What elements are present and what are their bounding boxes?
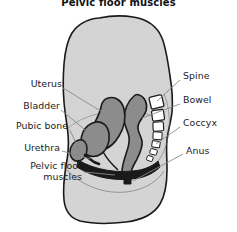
label-anus: Anus <box>186 146 209 157</box>
label-pelvic-floor-muscles: Pelvic floor muscles <box>0 161 82 182</box>
anus <box>124 179 131 184</box>
label-spine: Spine <box>183 71 209 82</box>
pubic-bone <box>70 140 87 161</box>
pelvic-floor-diagram: Pelvic floor muscles <box>0 0 237 232</box>
label-pubic-bone: Pubic bone <box>0 121 68 132</box>
label-urethra: Urethra <box>0 143 60 154</box>
label-bowel: Bowel <box>183 95 211 106</box>
label-coccyx: Coccyx <box>183 118 217 129</box>
anatomy-illustration <box>0 0 237 232</box>
label-bladder: Bladder <box>0 101 60 112</box>
label-uterus: Uterus <box>0 79 62 90</box>
